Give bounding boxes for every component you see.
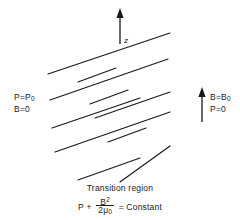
numerator-exponent: 2 xyxy=(106,196,110,203)
z-axis-label: z xyxy=(124,36,128,45)
left-b-value: 0 xyxy=(25,104,30,114)
left-field-equation: B=0 xyxy=(14,104,35,115)
physics-diagram: z P=P0 B=0 B=B0 P=0 Transition region P … xyxy=(0,0,240,220)
right-field-equation: B=B0 xyxy=(210,92,231,104)
field-line xyxy=(78,68,116,82)
field-line xyxy=(52,98,140,128)
caption-title: Transition region xyxy=(0,183,240,193)
right-region-labels: B=B0 P=0 xyxy=(210,92,231,115)
field-line xyxy=(108,128,146,142)
right-b-subscript: 0 xyxy=(227,95,231,102)
left-region-labels: P=P0 B=0 xyxy=(14,92,35,115)
field-line xyxy=(78,158,140,180)
field-line xyxy=(90,90,128,104)
caption-block: Transition region P + B2 2μ0 = Constant xyxy=(0,183,240,217)
fraction-numerator: B2 xyxy=(96,196,114,206)
left-pressure-equation: P=P0 xyxy=(14,92,35,104)
right-pressure-equation: P=0 xyxy=(210,104,231,115)
left-p-subscript: 0 xyxy=(31,95,35,102)
equation-p-term: P xyxy=(78,202,84,212)
field-line xyxy=(95,92,170,118)
pressure-balance-equation: P + B2 2μ0 = Constant xyxy=(78,196,162,217)
equation-equals-sign: = xyxy=(119,202,124,212)
field-direction-arrow xyxy=(198,87,205,122)
equation-constant-term: Constant xyxy=(126,202,162,212)
right-p-value: 0 xyxy=(221,104,226,114)
fraction-denominator: 2μ0 xyxy=(96,205,114,216)
equation-plus-sign: + xyxy=(86,202,91,212)
field-line xyxy=(120,146,170,182)
magnetic-pressure-fraction: B2 2μ0 xyxy=(96,196,114,217)
field-line xyxy=(48,33,170,74)
denominator-subscript: 0 xyxy=(108,209,112,216)
field-line xyxy=(50,59,168,100)
z-axis-arrow xyxy=(116,8,123,44)
field-line xyxy=(55,112,170,152)
